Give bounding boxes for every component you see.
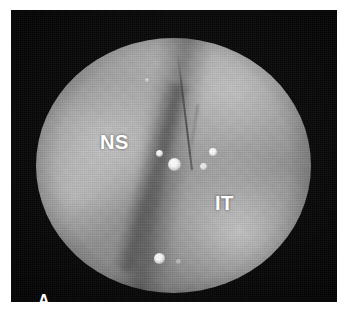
- specular-right-upper: [209, 148, 217, 156]
- specular-upper-faint: [145, 78, 149, 82]
- shadow-fold-band-secondary: [110, 80, 192, 275]
- specular-right-lower: [200, 163, 207, 170]
- specular-lower-center: [154, 253, 165, 264]
- scan-line-artifact: [36, 38, 311, 293]
- specular-center-small: [156, 150, 163, 157]
- photograph-frame: A: [11, 10, 337, 302]
- nasal-superior-label: NS: [100, 132, 129, 152]
- inferior-temporal-label: IT: [215, 193, 234, 213]
- specular-center-bright: [168, 158, 181, 171]
- circular-illuminated-field: [36, 38, 311, 293]
- vessel-main: [177, 54, 193, 171]
- vessel-branch: [189, 104, 198, 155]
- shadow-fold-band: [107, 38, 218, 293]
- figure-root: A NS IT: [0, 0, 349, 318]
- panel-letter-label: A: [38, 293, 50, 302]
- specular-lower-faint: [176, 259, 181, 264]
- field-film-grain: [36, 38, 311, 293]
